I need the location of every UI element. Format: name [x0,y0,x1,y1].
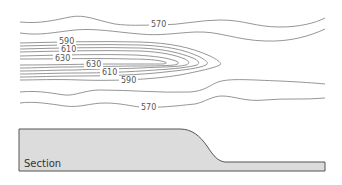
contour-label-630-mid: 630 [86,60,101,69]
contour-label-570-top: 570 [151,20,166,29]
contour-label-610-left: 610 [61,45,76,54]
contour-label-630-left: 630 [55,54,70,63]
contour-line-570-top-a [20,16,325,27]
cross-section: Section [19,129,325,171]
contour-group-spur [20,42,221,81]
contour-line-580-lower [20,80,325,96]
section-profile-shape [19,129,325,171]
contour-label-590-mid: 590 [121,76,136,85]
section-label: Section [24,158,61,169]
contour-diagram: 570 590 610 630 630 610 590 570 Section [0,0,342,185]
contour-label-570-bottom: 570 [141,103,156,112]
contour-label-610-mid: 610 [102,68,117,77]
contour-group-lower [20,80,325,108]
contour-line-570-lower [20,96,325,107]
